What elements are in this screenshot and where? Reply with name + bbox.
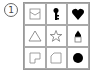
triangle-icon	[28, 29, 42, 43]
pencil-tip-icon	[71, 29, 85, 43]
puzzle-number: 1	[4, 3, 18, 17]
circle-icon	[71, 51, 85, 65]
cell-3	[67, 3, 89, 25]
envelope-icon	[28, 7, 42, 21]
cell-2	[46, 3, 68, 25]
key-icon	[49, 7, 63, 21]
cell-1	[24, 3, 46, 25]
cell-8	[46, 47, 68, 69]
cell-4	[24, 25, 46, 47]
cut-corner-square-icon	[49, 51, 63, 65]
notched-square-icon	[28, 51, 42, 65]
star-icon	[49, 29, 63, 43]
cell-6	[67, 25, 89, 47]
heart-icon	[71, 7, 85, 21]
cell-9	[67, 47, 89, 69]
cell-7	[24, 47, 46, 69]
cell-5	[46, 25, 68, 47]
shape-grid	[23, 2, 90, 70]
